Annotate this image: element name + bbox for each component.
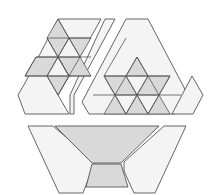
- hexagon-dissection-diagram: [0, 0, 211, 195]
- puzzle-canvas: [0, 0, 211, 195]
- bottom-trapezoid-small: [86, 164, 128, 187]
